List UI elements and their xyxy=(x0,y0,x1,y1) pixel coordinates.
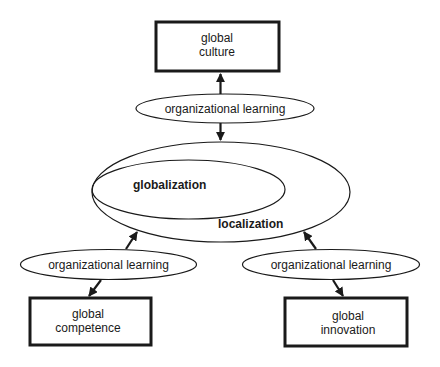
arrow-to-global-competence xyxy=(89,280,101,296)
org-learning-top-node: organizational learning xyxy=(136,94,314,123)
diagram-svg: global culture organizational learning l… xyxy=(0,0,440,367)
org-learning-top-label: organizational learning xyxy=(165,102,286,116)
global-culture-box: global culture xyxy=(156,22,279,71)
org-learning-left-node: organizational learning xyxy=(21,250,197,280)
global-competence-box: global competence xyxy=(30,298,151,345)
localization-node: localization xyxy=(92,142,350,242)
diagram-canvas: global culture organizational learning l… xyxy=(0,0,440,367)
global-competence-line2: competence xyxy=(55,321,121,335)
org-learning-right-node: organizational learning xyxy=(243,250,420,280)
org-learning-right-label: organizational learning xyxy=(271,258,392,272)
org-learning-left-label: organizational learning xyxy=(48,258,169,272)
global-innovation-box: global innovation xyxy=(285,298,407,346)
arrow-left-to-localization xyxy=(126,232,137,249)
global-innovation-line2: innovation xyxy=(321,323,376,337)
global-competence-line1: global xyxy=(72,307,104,321)
arrow-right-to-localization xyxy=(304,232,316,249)
globalization-label: globalization xyxy=(133,178,206,192)
localization-label: localization xyxy=(218,217,283,231)
arrow-to-global-innovation xyxy=(333,280,343,296)
global-culture-line2: culture xyxy=(199,45,235,59)
global-innovation-line1: global xyxy=(332,309,364,323)
global-culture-line1: global xyxy=(201,31,233,45)
